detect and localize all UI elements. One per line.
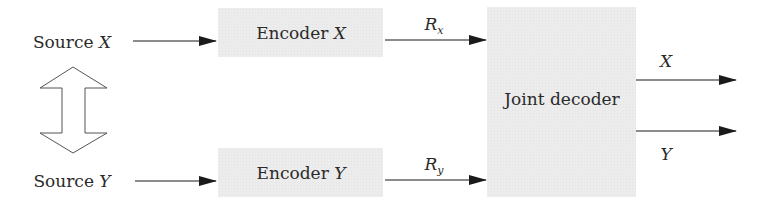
correlation-double-arrow-icon bbox=[40, 67, 107, 153]
rate-x-symbol: R bbox=[424, 14, 437, 34]
rate-x-label: Rx bbox=[424, 14, 443, 37]
source-y-var: Y bbox=[99, 171, 110, 191]
rate-x-subscript: x bbox=[437, 24, 443, 37]
encoder-y-text: Encoder bbox=[257, 163, 329, 183]
source-x-var: X bbox=[99, 32, 111, 52]
output-y-label: Y bbox=[660, 144, 671, 164]
rate-y-subscript: y bbox=[437, 164, 443, 177]
output-x-label: X bbox=[660, 51, 672, 71]
source-y-text: Source bbox=[33, 171, 94, 191]
encoder-y-label: Encoder Y bbox=[257, 163, 346, 183]
rate-y-label: Ry bbox=[424, 154, 443, 177]
encoder-x-var: X bbox=[334, 23, 346, 43]
encoder-x-text: Encoder bbox=[256, 23, 328, 43]
rate-y-symbol: R bbox=[424, 154, 437, 174]
source-x-label: Source X bbox=[33, 32, 111, 52]
source-y-label: Source Y bbox=[33, 171, 110, 191]
encoder-x-label: Encoder X bbox=[256, 23, 346, 43]
joint-decoder-label: Joint decoder bbox=[504, 89, 619, 109]
connector-arrows bbox=[0, 0, 773, 200]
source-x-text: Source bbox=[33, 32, 94, 52]
encoder-y-var: Y bbox=[334, 163, 345, 183]
